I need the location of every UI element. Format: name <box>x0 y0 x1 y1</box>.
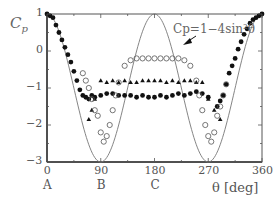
x-tick-label: 0 <box>44 164 51 177</box>
y-tick-label: −3 <box>26 154 42 167</box>
position-label: A <box>43 178 52 192</box>
y-tick-label: −2 <box>26 117 42 130</box>
x-tick-label: 180 <box>145 164 166 177</box>
x-axis-label: θ [deg] <box>212 180 258 195</box>
annotation-arrow-icon <box>183 36 196 45</box>
y-tick-label: 1 <box>36 6 43 19</box>
x-tick-label: 360 <box>252 164 273 177</box>
position-label: B <box>97 178 106 192</box>
position-label: C <box>151 178 160 192</box>
y-axis-label: Cp <box>10 14 28 34</box>
x-tick-label: 90 <box>94 164 108 177</box>
y-tick-label: −1 <box>26 80 42 93</box>
y-tick-label: 0 <box>36 43 43 56</box>
x-tick-label: 270 <box>198 164 219 177</box>
curve-annotation: Cp=1−4sin²θ <box>173 22 255 36</box>
